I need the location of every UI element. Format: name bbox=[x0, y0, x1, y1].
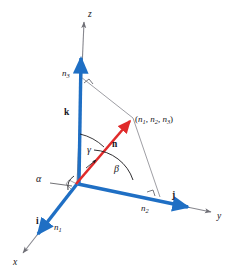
coord-close-paren: ) bbox=[170, 114, 173, 124]
projection-line-tip-to-n2 bbox=[133, 118, 160, 197]
vector-direction-angles-figure: z y x k j i n n1 n2 n3 (n1, n2, n3) α bbox=[0, 0, 234, 272]
alpha-leader-line bbox=[50, 183, 72, 186]
z-axis-label: z bbox=[87, 9, 92, 19]
component-n1-label: n1 bbox=[54, 222, 62, 233]
angle-gamma-label: γ bbox=[87, 144, 92, 155]
k-unit-vector bbox=[79, 58, 81, 183]
component-n3-subscript: 3 bbox=[66, 72, 70, 79]
diagram-canvas: z y x k j i n n1 n2 n3 (n1, n2, n3) α bbox=[0, 0, 234, 272]
angle-beta-label: β bbox=[113, 163, 119, 174]
component-n1-subscript: 1 bbox=[59, 226, 62, 233]
i-unit-vector-label: i bbox=[36, 216, 39, 226]
vector-n-label: n bbox=[112, 139, 118, 149]
projection-line-n3-to-tip bbox=[81, 77, 133, 118]
vector-n bbox=[76, 121, 130, 184]
component-n2-subscript: 2 bbox=[146, 207, 150, 214]
y-axis-label: y bbox=[216, 211, 222, 221]
component-n3-label: n3 bbox=[62, 68, 70, 79]
right-angle-mark-n2 bbox=[147, 190, 155, 196]
k-unit-vector-label: k bbox=[64, 107, 70, 117]
angle-alpha-label: α bbox=[36, 173, 42, 184]
x-axis-label: x bbox=[12, 257, 18, 267]
component-n2-label: n2 bbox=[141, 203, 150, 214]
vector-tip-coordinates-label: (n1, n2, n3) bbox=[135, 114, 173, 125]
j-unit-vector-label: j bbox=[171, 190, 175, 200]
angle-arc-gamma bbox=[80, 134, 104, 147]
